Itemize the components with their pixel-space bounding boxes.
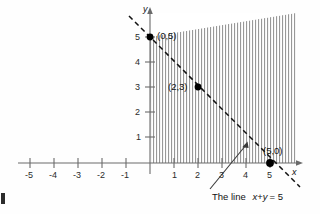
annotation-prefix: The line — [212, 191, 246, 202]
x-tick-label-5: 5 — [267, 171, 272, 180]
y-tick-label-4: 4 — [135, 58, 140, 67]
x-tick-label--3: -3 — [73, 171, 81, 180]
y-tick-label-5: 5 — [135, 33, 140, 42]
annotation-var-y: y — [263, 191, 268, 202]
point-2-3 — [195, 84, 202, 91]
figure-canvas: -5 -4 -3 -2 -1 1 2 3 4 5 1 2 3 4 5 y x (… — [0, 0, 320, 214]
line-annotation-text: The line x+y= 5 — [212, 192, 283, 202]
x-tick-label--2: -2 — [97, 171, 105, 180]
x-tick-label--4: -4 — [49, 171, 57, 180]
x-tick-label--1: -1 — [121, 171, 129, 180]
point-label-2-3: (2,3) — [168, 82, 188, 92]
y-tick-label-3: 3 — [135, 83, 140, 92]
point-0-5 — [147, 34, 154, 41]
x-tick-label-4: 4 — [243, 171, 248, 180]
annotation-equals: = 5 — [270, 191, 283, 202]
x-tick-label--5: -5 — [25, 171, 33, 180]
y-axis-label: y — [143, 5, 148, 14]
point-label-5-0: (5,0) — [263, 146, 283, 156]
y-tick-label-1: 1 — [136, 133, 141, 142]
point-label-0-5: (0,5) — [157, 31, 177, 41]
page-edge-artifact — [1, 193, 5, 204]
x-tick-label-1: 1 — [172, 171, 177, 180]
x-axis-label: x — [292, 168, 297, 177]
y-tick-label-2: 2 — [135, 108, 140, 117]
x-tick-label-2: 2 — [195, 171, 200, 180]
point-5-0 — [266, 159, 274, 167]
x-tick-label-3: 3 — [219, 171, 224, 180]
